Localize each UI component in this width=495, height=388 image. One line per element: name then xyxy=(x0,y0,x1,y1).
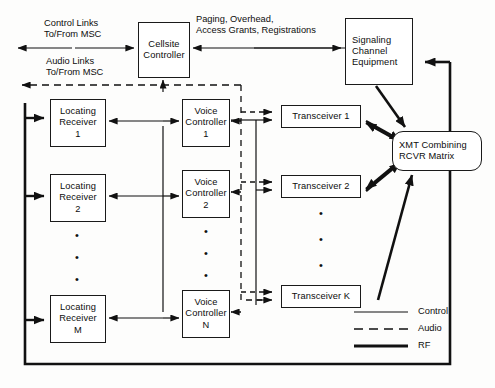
node-xmt-combining-rcvr-matrix[interactable]: XMT Combining RCVR Matrix xyxy=(392,131,482,171)
signaling-line3: Equipment xyxy=(352,57,397,68)
node-locating-receiver-2[interactable]: Locating Receiver 2 xyxy=(50,174,106,222)
transceiver-1-label: Transceiver 1 xyxy=(292,111,349,122)
signaling-line2: Channel xyxy=(352,46,387,57)
node-transceiver-1[interactable]: Transceiver 1 xyxy=(281,105,361,128)
locating-receiver-2-line3: 2 xyxy=(75,204,80,215)
voice-controller-1-line2: Controller xyxy=(185,117,226,128)
control-links-receivers-controllers xyxy=(109,121,179,318)
audio-links-line2: To/From MSC xyxy=(46,67,103,78)
voice-controller-2-line1: Voice xyxy=(194,177,217,188)
node-voice-controller-n[interactable]: Voice Controller N xyxy=(182,290,230,338)
ellipsis-voice-controllers: • • • xyxy=(200,228,212,278)
voice-controller-n-line2: Controller xyxy=(185,308,226,319)
control-links-line2: To/From MSC xyxy=(44,29,101,40)
node-transceiver-2[interactable]: Transceiver 2 xyxy=(281,175,361,198)
dot: • xyxy=(319,262,323,268)
voice-controller-n-line1: Voice xyxy=(194,297,217,308)
xmt-matrix-line2: RCVR Matrix xyxy=(399,151,454,162)
control-links-line1: Control Links xyxy=(44,18,101,29)
locating-receiver-1-line1: Locating xyxy=(60,106,96,117)
label-control-links: Control Links To/From MSC xyxy=(44,18,101,41)
locating-receiver-m-line3: M xyxy=(74,325,82,336)
locating-receiver-2-line2: Receiver xyxy=(59,192,96,203)
node-voice-controller-2[interactable]: Voice Controller 2 xyxy=(182,170,230,218)
dot: • xyxy=(204,272,208,278)
transceiver-2-label: Transceiver 2 xyxy=(292,181,349,192)
node-voice-controller-1[interactable]: Voice Controller 1 xyxy=(182,99,230,147)
legend-swatches xyxy=(352,305,412,353)
voice-controller-2-line2: Controller xyxy=(185,188,226,199)
locating-receiver-2-line1: Locating xyxy=(60,181,96,192)
dot: • xyxy=(204,228,208,234)
node-transceiver-k[interactable]: Transceiver K xyxy=(281,285,361,308)
legend-label-audio: Audio xyxy=(418,323,442,333)
label-paging-overhead: Paging, Overhead, Access Grants, Registr… xyxy=(196,14,316,37)
ellipsis-transceivers: • • • xyxy=(315,210,327,268)
cellsite-controller-line1: Cellsite xyxy=(148,39,179,50)
dot: • xyxy=(319,236,323,242)
dot: • xyxy=(75,232,79,238)
dot: • xyxy=(319,210,323,216)
node-signaling-channel-equipment[interactable]: Signaling Channel Equipment xyxy=(345,18,413,85)
voice-controller-1-line1: Voice xyxy=(194,106,217,117)
control-bus-transceivers xyxy=(231,120,272,305)
voice-controller-1-line3: 1 xyxy=(203,129,208,140)
voice-controller-n-line3: N xyxy=(203,320,210,331)
paging-line2: Access Grants, Registrations xyxy=(196,25,316,36)
locating-receiver-m-line1: Locating xyxy=(60,302,96,313)
xmt-matrix-line1: XMT Combining xyxy=(399,140,467,151)
audio-bus-dashed xyxy=(241,85,262,300)
rf-bottom-to-matrix xyxy=(378,175,412,300)
diagram-canvas: Cellsite Controller Signaling Channel Eq… xyxy=(0,0,495,388)
cellsite-controller-line2: Controller xyxy=(143,50,184,61)
paging-line1: Paging, Overhead, xyxy=(196,14,316,25)
legend-label-rf: RF xyxy=(418,340,430,350)
locating-receiver-1-line3: 1 xyxy=(75,129,80,140)
rf-feed-locating-receivers xyxy=(25,118,44,320)
signaling-line1: Signaling xyxy=(352,35,391,46)
label-audio-links: Audio Links To/From MSC xyxy=(46,56,103,79)
dot: • xyxy=(75,254,79,260)
ellipsis-locating-receivers: • • • xyxy=(71,232,83,282)
rf-signaling-to-matrix xyxy=(376,86,405,127)
node-cellsite-controller[interactable]: Cellsite Controller xyxy=(138,22,190,78)
dot: • xyxy=(204,250,208,256)
dot: • xyxy=(75,276,79,282)
audio-links-line1: Audio Links xyxy=(46,56,103,67)
locating-receiver-m-line2: Receiver xyxy=(59,313,96,324)
audio-stubs-voice-controllers xyxy=(231,121,241,312)
node-locating-receiver-1[interactable]: Locating Receiver 1 xyxy=(50,99,106,147)
node-locating-receiver-m[interactable]: Locating Receiver M xyxy=(50,295,106,343)
transceiver-k-label: Transceiver K xyxy=(292,291,350,302)
voice-controller-2-line3: 2 xyxy=(203,200,208,211)
locating-receiver-1-line2: Receiver xyxy=(59,117,96,128)
legend-label-control: Control xyxy=(418,306,448,316)
